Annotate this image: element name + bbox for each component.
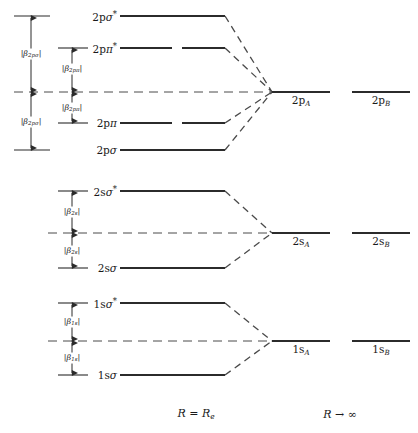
label-2s-B: 2sB [372,236,389,248]
mo-correlation-diagram: 2pσ* 2pπ* 2pπ 2pσ 2sσ* 2sσ 1sσ* 1sσ 2pA … [0,0,418,433]
connector-2p-pi-star [225,48,272,92]
label-beta-1s-lower: |β1s| [62,353,82,364]
connector-2p-sigma-star [225,16,272,92]
label-1s-sigma: 1sσ [98,370,117,381]
label-2p-sigma-star: 2pσ* [92,10,117,22]
label-1s-B: 1sB [372,344,389,356]
connector-2s-sigma-star [225,191,272,233]
group-2p [14,16,410,150]
group-2s [48,191,410,268]
connector-1s-sigma [225,341,272,375]
group-1s [48,303,410,375]
connector-2s-sigma [225,233,272,268]
label-2s-sigma: 2sσ [98,263,117,274]
label-1s-A: 1sA [292,344,309,356]
label-beta-2ppi-upper: |β2pπ| [60,64,85,75]
label-beta-2s-upper: |β2s| [62,207,82,218]
label-beta-2s-lower: |β2s| [62,246,82,257]
label-2p-pi: 2pπ [97,118,117,129]
connector-2p-pi [225,92,272,123]
label-beta-2ppi-lower: |β2pπ| [60,103,85,114]
label-2p-pi-star: 2pπ* [93,42,118,54]
label-beta-2psigma-lower: |β2pσ| [19,117,44,128]
label-2p-B: 2pB [372,95,391,107]
label-2p-sigma: 2pσ [96,145,117,156]
label-2s-sigma-star: 2sσ* [94,185,117,197]
label-beta-2psigma-upper: |β2pσ| [19,49,44,60]
axis-label-infinite-separation: R → ∞ [323,409,357,420]
label-2s-A: 2sA [292,236,309,248]
connector-2p-sigma [225,92,272,150]
connector-1s-sigma-star [225,303,272,341]
axis-label-equilibrium: R = Re [177,408,214,421]
label-beta-1s-upper: |β1s| [62,317,82,328]
label-2p-A: 2pA [292,95,311,107]
label-1s-sigma-star: 1sσ* [94,297,117,309]
